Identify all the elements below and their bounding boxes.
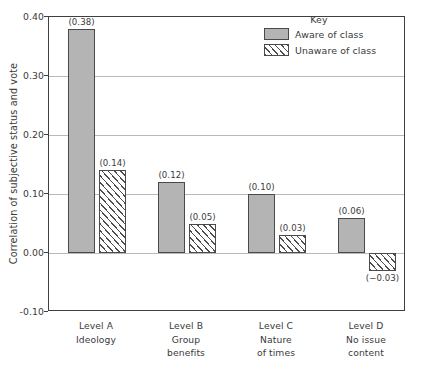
- y-axis-tick-label: 0.00: [4, 247, 44, 258]
- x-axis-group-sublabel: No issue: [346, 333, 386, 347]
- bar-value-label: (−0.03): [366, 273, 399, 283]
- y-axis-tick-label: 0.20: [4, 129, 44, 140]
- y-axis-tick-label: 0.30: [4, 70, 44, 81]
- y-axis-tick-label: 0.40: [4, 11, 44, 22]
- x-axis-group-sublabel: Ideology: [76, 333, 116, 347]
- x-axis-group-name: Level D: [346, 319, 386, 333]
- x-axis-group-sublabel: Group: [167, 333, 205, 347]
- solid-gray-swatch: [264, 28, 289, 40]
- hatched-swatch: [264, 44, 289, 56]
- bar: [338, 218, 365, 253]
- gridline: [49, 76, 404, 77]
- gridline: [49, 135, 404, 136]
- gridline: [49, 253, 404, 254]
- y-axis-tick-label: 0.10: [4, 188, 44, 199]
- bar: [158, 182, 185, 253]
- x-axis-group-label: Level AIdeology: [76, 319, 116, 346]
- legend-title: Key: [258, 14, 406, 25]
- bar: [279, 235, 306, 253]
- y-axis-tick-mark: [44, 311, 48, 312]
- bar: [248, 194, 275, 253]
- bar-value-label: (0.05): [189, 212, 215, 222]
- legend: Key Aware of class Unaware of class: [258, 14, 406, 60]
- x-axis-group-sublabel: content: [346, 346, 386, 360]
- x-axis-group-name: Level B: [167, 319, 205, 333]
- bar-value-label: (0.03): [279, 223, 305, 233]
- bar: [99, 170, 126, 253]
- bar: [68, 29, 95, 253]
- x-axis-group-name: Level A: [76, 319, 116, 333]
- x-axis-group-label: Level CNatureof times: [257, 319, 295, 360]
- x-axis-group-sublabel: benefits: [167, 346, 205, 360]
- legend-item-aware: Aware of class: [258, 28, 406, 40]
- x-axis-group-label: Level BGroupbenefits: [167, 319, 205, 360]
- legend-item-unaware: Unaware of class: [258, 44, 406, 56]
- x-axis-group-sublabel: Nature: [257, 333, 295, 347]
- legend-item-label: Aware of class: [295, 29, 364, 40]
- plot-area: (0.38)(0.14)(0.12)(0.05)(0.10)(0.03)(0.0…: [48, 16, 405, 311]
- bar-value-label: (0.38): [68, 17, 94, 27]
- y-axis-tick-label: -0.10: [4, 306, 44, 317]
- bar: [189, 224, 216, 254]
- legend-item-label: Unaware of class: [295, 45, 376, 56]
- bar-value-label: (0.14): [99, 158, 125, 168]
- bar: [369, 253, 396, 271]
- bar-chart: Correlation of subjective status and vot…: [0, 0, 421, 367]
- x-axis-group-label: Level DNo issuecontent: [346, 319, 386, 360]
- bar-value-label: (0.06): [338, 206, 364, 216]
- x-axis-group-name: Level C: [257, 319, 295, 333]
- bar-value-label: (0.12): [158, 170, 184, 180]
- x-axis-group-sublabel: of times: [257, 346, 295, 360]
- bar-value-label: (0.10): [248, 182, 274, 192]
- y-axis-title: Correlation of subjective status and vot…: [6, 16, 22, 311]
- y-axis-title-text: Correlation of subjective status and vot…: [9, 63, 20, 264]
